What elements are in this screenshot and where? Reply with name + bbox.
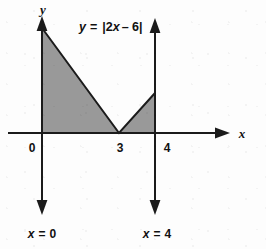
boundary-0-eq: = [38,227,45,241]
shaded-area-region [42,28,155,133]
y-axis-label: y [38,2,46,17]
x-tick-label-4: 4 [164,141,171,155]
x-axis-label: x [238,126,246,141]
boundary-0-rhs: 0 [50,227,57,241]
boundary-label-x-equals-0: x=0 [27,227,57,241]
boundary-label-x-equals-4: x=4 [142,227,172,241]
svg-text:y=|2x– 6|: y=|2x– 6| [78,20,143,34]
boundary-4-rhs: 4 [165,227,172,241]
absolute-value-graph: y x 0 3 4 y=|2x– 6| x=0 x=4 [0,0,266,249]
boundary-4-eq: = [153,227,160,241]
down-arrow-icon-x4 [150,200,161,215]
boundary-0-lhs: x [27,227,36,241]
x-tick-label-3: 3 [117,141,124,155]
up-arrow-icon-x4 [150,18,161,33]
equation-lhs: y [78,20,87,34]
svg-text:x=0: x=0 [27,227,57,241]
down-arrow-icon-x0 [37,200,48,215]
svg-text:x=4: x=4 [142,227,172,241]
equation-label: y=|2x– 6| [78,20,143,34]
equation-rhs: |2 [102,20,112,34]
right-arrow-icon-x-axis [215,128,230,139]
x-tick-label-0: 0 [29,141,36,155]
boundary-4-lhs: x [142,227,151,241]
equation-equals: = [90,20,97,34]
math-figure: y x 0 3 4 y=|2x– 6| x=0 x=4 [0,0,266,249]
